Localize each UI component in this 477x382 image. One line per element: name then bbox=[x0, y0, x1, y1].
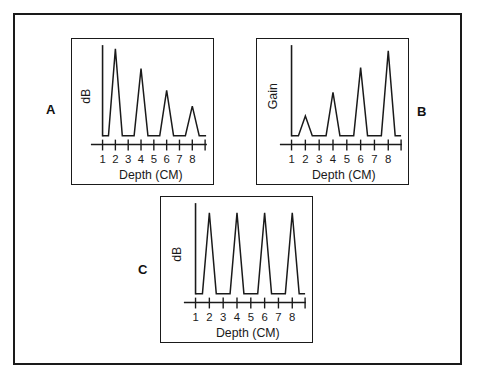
panel-a-tick-labels: 1 2 3 4 5 6 7 8 bbox=[99, 153, 195, 165]
panel-b: 1 2 3 4 5 6 7 8 Depth (CM) Gain bbox=[256, 38, 409, 185]
panel-c-plot: 1 2 3 4 5 6 7 8 Depth (CM) dB bbox=[161, 197, 312, 342]
svg-text:3: 3 bbox=[125, 153, 131, 165]
panel-label-a: A bbox=[46, 103, 55, 116]
panel-c-tick-labels: 1 2 3 4 5 6 7 8 bbox=[192, 311, 295, 323]
svg-text:7: 7 bbox=[176, 153, 182, 165]
svg-text:4: 4 bbox=[138, 153, 144, 165]
figure-canvas: 1 2 3 4 5 6 7 8 Depth (CM) dB A bbox=[0, 0, 477, 382]
svg-text:1: 1 bbox=[192, 311, 198, 323]
panel-a-plot: 1 2 3 4 5 6 7 8 Depth (CM) dB bbox=[72, 39, 213, 184]
svg-text:8: 8 bbox=[189, 153, 195, 165]
svg-text:6: 6 bbox=[261, 311, 267, 323]
svg-text:5: 5 bbox=[248, 311, 254, 323]
svg-text:2: 2 bbox=[206, 311, 212, 323]
svg-text:6: 6 bbox=[357, 153, 363, 165]
svg-text:5: 5 bbox=[151, 153, 157, 165]
panel-b-y-axis-title: Gain bbox=[266, 83, 280, 109]
panel-b-plot: 1 2 3 4 5 6 7 8 Depth (CM) Gain bbox=[257, 39, 408, 184]
svg-text:3: 3 bbox=[220, 311, 226, 323]
svg-text:8: 8 bbox=[289, 311, 295, 323]
panel-label-c: C bbox=[138, 263, 147, 276]
panel-b-tick-labels: 1 2 3 4 5 6 7 8 bbox=[288, 153, 391, 165]
panel-c-x-axis-title: Depth (CM) bbox=[216, 326, 280, 340]
panel-c: 1 2 3 4 5 6 7 8 Depth (CM) dB bbox=[160, 196, 313, 343]
panel-a-x-axis-title: Depth (CM) bbox=[119, 168, 183, 182]
svg-text:7: 7 bbox=[275, 311, 281, 323]
svg-text:2: 2 bbox=[112, 153, 118, 165]
panel-a-trace bbox=[103, 49, 207, 136]
panel-c-y-axis-title: dB bbox=[170, 247, 184, 262]
panel-a: 1 2 3 4 5 6 7 8 Depth (CM) dB bbox=[71, 38, 214, 185]
panel-label-b: B bbox=[417, 105, 426, 118]
svg-text:1: 1 bbox=[99, 153, 105, 165]
svg-text:4: 4 bbox=[330, 153, 336, 165]
panel-b-x-axis-title: Depth (CM) bbox=[312, 168, 376, 182]
svg-text:6: 6 bbox=[164, 153, 170, 165]
panel-b-trace bbox=[292, 51, 402, 136]
svg-text:7: 7 bbox=[371, 153, 377, 165]
svg-text:2: 2 bbox=[302, 153, 308, 165]
svg-text:3: 3 bbox=[316, 153, 322, 165]
svg-text:5: 5 bbox=[344, 153, 350, 165]
panel-c-trace bbox=[196, 213, 306, 294]
svg-text:4: 4 bbox=[234, 311, 240, 323]
panel-a-y-axis-title: dB bbox=[79, 89, 93, 104]
svg-text:1: 1 bbox=[288, 153, 294, 165]
svg-text:8: 8 bbox=[385, 153, 391, 165]
